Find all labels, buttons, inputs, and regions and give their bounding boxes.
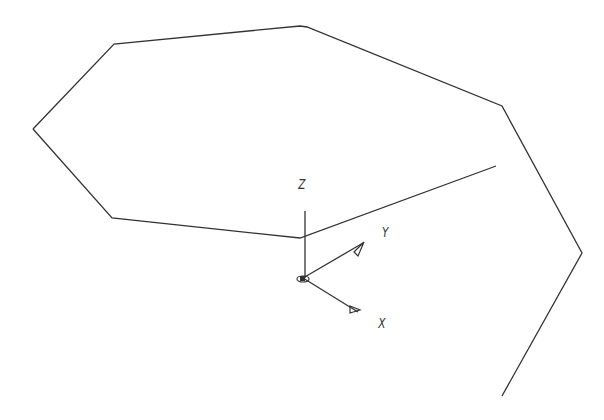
- z-axis-label: Z: [298, 176, 305, 192]
- x-axis-label: X: [378, 315, 385, 331]
- y-axis-label: Y: [382, 224, 388, 240]
- drawing-canvas: [0, 0, 604, 420]
- origin-box-icon: [300, 276, 305, 281]
- lower-edge-polyline: [33, 129, 496, 238]
- outline-polyline: [33, 26, 582, 396]
- y-arrow-icon: [354, 242, 364, 256]
- y-axis-line: [303, 243, 363, 278]
